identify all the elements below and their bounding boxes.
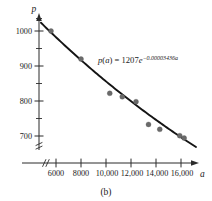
y-tick-label-700: 700 <box>20 132 32 141</box>
x-axis-group: 6000 8000 10,000 12,000 14,000 16,000 a <box>22 159 205 179</box>
x-tick-label-6000: 6000 <box>48 169 64 178</box>
scatter-plot-chart: 1000 900 800 700 p 6000 8000 <box>0 0 212 201</box>
equation-exponent: −0.00003436a <box>143 55 179 61</box>
data-point <box>49 29 54 34</box>
x-tick-label-10000: 10,000 <box>96 169 119 178</box>
y-tick-label-800: 800 <box>20 97 32 106</box>
y-axis-label: p <box>31 4 37 14</box>
x-tick-label-12000: 12,000 <box>121 169 144 178</box>
equation-annotation: p(a) = 1207e−0.00003436a <box>97 55 178 65</box>
data-point <box>177 133 182 138</box>
figure-caption: (b) <box>100 187 111 198</box>
equation-text: p(a) = 1207e−0.00003436a <box>97 55 178 65</box>
fit-curve-group <box>41 23 196 147</box>
x-tick-label-14000: 14,000 <box>146 169 169 178</box>
x-tick-label-16000: 16,000 <box>171 169 194 178</box>
data-point <box>79 57 84 62</box>
x-tick-label-8000: 8000 <box>73 169 89 178</box>
data-point <box>107 91 112 96</box>
data-point <box>157 127 162 132</box>
data-point <box>134 99 139 104</box>
y-axis-group: 1000 900 800 700 p <box>16 4 44 150</box>
x-axis-label: a <box>200 169 205 179</box>
fitted-exponential-curve <box>41 23 196 147</box>
y-tick-label-900: 900 <box>20 62 32 71</box>
data-point <box>146 122 151 127</box>
data-point <box>182 136 187 141</box>
y-axis-arrowhead <box>36 13 42 21</box>
data-point <box>120 94 125 99</box>
figure-container: 1000 900 800 700 p 6000 8000 <box>0 0 212 201</box>
y-tick-label-1000: 1000 <box>16 27 32 36</box>
x-axis-arrowhead <box>191 160 199 166</box>
equation-coefficient: 1207 <box>122 55 140 65</box>
data-points-layer <box>49 29 187 141</box>
